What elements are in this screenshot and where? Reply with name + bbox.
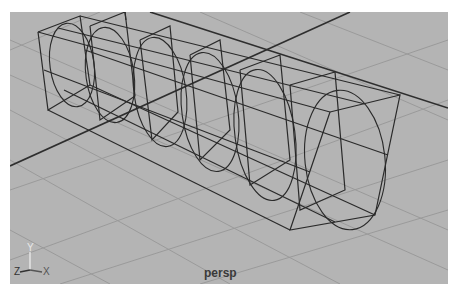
wireframe-scene: [10, 12, 448, 284]
axis-gizmo: Y Z X: [14, 242, 54, 278]
axis-label-y: Y: [27, 242, 34, 253]
camera-label: persp: [204, 266, 237, 280]
axis-label-z: Z: [14, 266, 20, 277]
box-wireframe: [38, 12, 400, 230]
axis-label-x: X: [43, 266, 50, 277]
perspective-viewport[interactable]: Y Z X persp: [10, 12, 448, 284]
